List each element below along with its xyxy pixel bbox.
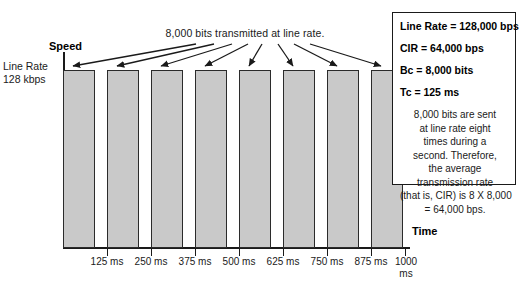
- bar-pulse-4: [195, 70, 227, 248]
- diagram-canvas: 8,000 bits transmitted at line rate. Spe…: [0, 0, 521, 308]
- bar-pulse-1: [63, 70, 95, 248]
- info-line-cir: CIR = 64,000 bps: [400, 42, 510, 54]
- info-paragraph-line-6: transmission rate: [400, 176, 510, 190]
- info-paragraph-line-2: at line rate eight: [400, 122, 510, 136]
- x-tick-6: [327, 248, 328, 256]
- y-axis-level-label: Line Rate 128 kbps: [3, 60, 61, 86]
- x-tick-label-end: 1000 ms: [383, 256, 429, 280]
- level-label-line-2: 128 kbps: [3, 73, 61, 86]
- bar-pulse-2: [107, 70, 139, 248]
- x-tick-8: [405, 248, 406, 256]
- x-tick-label-2: 250 ms: [128, 256, 174, 267]
- x-tick-label-5: 625 ms: [260, 256, 306, 267]
- x-tick-label-end-unit: ms: [383, 268, 429, 280]
- info-line-bc: Bc = 8,000 bits: [400, 64, 510, 76]
- info-paragraph-line-5: the average: [400, 162, 510, 176]
- parameters-info-box: Line Rate = 128,000 bps CIR = 64,000 bps…: [392, 12, 516, 185]
- x-tick-label-1: 125 ms: [84, 256, 130, 267]
- info-paragraph-line-4: second. Therefore,: [400, 149, 510, 163]
- bar-pulse-7: [327, 70, 359, 248]
- info-line-tc: Tc = 125 ms: [400, 86, 510, 98]
- x-tick-label-3: 375 ms: [172, 256, 218, 267]
- bar-pulse-3: [151, 70, 183, 248]
- x-tick-label-6: 750 ms: [304, 256, 350, 267]
- x-tick-5: [283, 248, 284, 256]
- callout-annotation: 8,000 bits transmitted at line rate.: [110, 27, 380, 39]
- info-paragraph-line-7: (that is, CIR) is 8 X 8,000: [400, 189, 510, 203]
- bar-pulse-5: [239, 70, 271, 248]
- y-axis-title: Speed: [49, 40, 82, 52]
- info-paragraph: 8,000 bits are sent at line rate eight t…: [400, 108, 510, 216]
- level-label-line-1: Line Rate: [3, 60, 61, 73]
- info-paragraph-line-8: = 64,000 bps.: [400, 203, 510, 217]
- bar-pulse-6: [283, 70, 315, 248]
- info-paragraph-line-1: 8,000 bits are sent: [400, 108, 510, 122]
- x-tick-1: [107, 248, 108, 256]
- x-axis-title: Time: [412, 225, 437, 237]
- x-tick-label-end-value: 1000: [383, 256, 429, 268]
- info-line-line-rate: Line Rate = 128,000 bps: [400, 20, 510, 32]
- info-paragraph-line-3: times during a: [400, 135, 510, 149]
- x-tick-label-4: 500 ms: [216, 256, 262, 267]
- x-tick-3: [195, 248, 196, 256]
- x-tick-4: [239, 248, 240, 256]
- x-tick-7: [371, 248, 372, 256]
- x-tick-2: [151, 248, 152, 256]
